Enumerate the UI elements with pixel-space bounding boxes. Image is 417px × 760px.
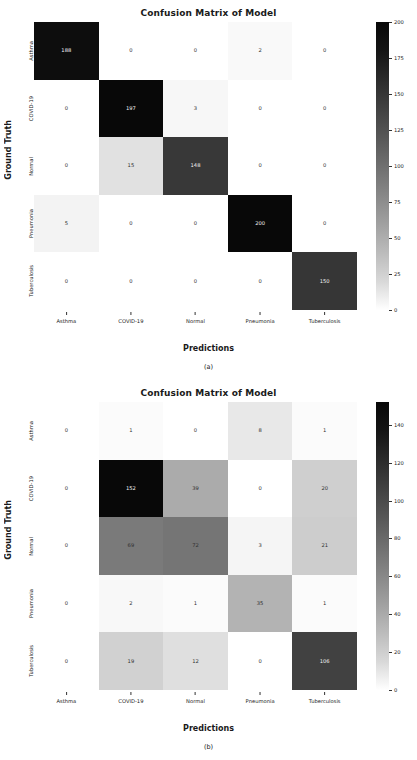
chart-title-b: Confusion Matrix of Model bbox=[0, 388, 417, 398]
colorbar-tick: 100 bbox=[389, 163, 404, 169]
x-tick-labels-a: AsthmaCOVID-19NormalPneumoniaTuberculosi… bbox=[34, 312, 357, 334]
heatmap-cell-value: 0 bbox=[129, 48, 132, 53]
heatmap-cell-value: 0 bbox=[65, 279, 68, 284]
heatmap-cell: 20 bbox=[292, 460, 357, 518]
x-tick-pneumonia: Pneumonia bbox=[246, 692, 275, 704]
x-tick-asthma: Asthma bbox=[56, 692, 76, 704]
heatmap-cell: 12 bbox=[163, 632, 228, 690]
heatmap-cell-value: 12 bbox=[192, 659, 199, 664]
y-tick-tuberculosis: Tuberculosis bbox=[14, 252, 34, 310]
heatmap-cell: 197 bbox=[99, 80, 164, 138]
heatmap-cell: 0 bbox=[228, 137, 293, 195]
heatmap-cell: 0 bbox=[292, 80, 357, 138]
heatmap-cell-value: 0 bbox=[194, 221, 197, 226]
colorbar-tick: 100 bbox=[389, 498, 404, 504]
heatmap-cell: 0 bbox=[228, 460, 293, 518]
heatmap-cell: 0 bbox=[34, 80, 99, 138]
heatmap-cell: 0 bbox=[292, 22, 357, 80]
heatmap-cell: 5 bbox=[34, 195, 99, 253]
x-tick-covid-19: COVID-19 bbox=[118, 692, 143, 704]
y-tick-labels-b: AsthmaCOVID-19NormalPneumoniaTuberculosi… bbox=[14, 402, 34, 690]
figure-a: Confusion Matrix of Model Ground Truth A… bbox=[0, 0, 417, 380]
heatmap-cell: 188 bbox=[34, 22, 99, 80]
heatmap-cell: 0 bbox=[292, 195, 357, 253]
heatmap-cell-value: 0 bbox=[258, 106, 261, 111]
heatmap-cell-value: 0 bbox=[65, 163, 68, 168]
figure-caption-a: (a) bbox=[0, 363, 417, 371]
heatmap-cell: 0 bbox=[34, 402, 99, 460]
heatmap-cell-value: 5 bbox=[65, 221, 68, 226]
heatmap-cell: 35 bbox=[228, 575, 293, 633]
heatmap-cell: 39 bbox=[163, 460, 228, 518]
x-tick-normal: Normal bbox=[186, 692, 205, 704]
heatmap-cell-value: 197 bbox=[126, 106, 136, 111]
heatmap-cell-value: 0 bbox=[258, 163, 261, 168]
heatmap-grid-a: 188002001973000151480050020000000150 bbox=[34, 22, 357, 310]
heatmap-cell-value: 0 bbox=[65, 106, 68, 111]
x-axis-title-a: Predictions bbox=[0, 344, 417, 353]
y-tick-covid-19: COVID-19 bbox=[14, 80, 34, 138]
heatmap-cell-value: 106 bbox=[320, 659, 330, 664]
colorbar-tick: 75 bbox=[389, 199, 401, 205]
colorbar-tick: 0 bbox=[389, 687, 397, 693]
heatmap-cell: 0 bbox=[34, 517, 99, 575]
heatmap-cell-value: 1 bbox=[323, 601, 326, 606]
heatmap-cell: 0 bbox=[34, 575, 99, 633]
heatmap-cell-value: 1 bbox=[129, 428, 132, 433]
heatmap-cell: 200 bbox=[228, 195, 293, 253]
heatmap-cell: 0 bbox=[292, 137, 357, 195]
heatmap-cell-value: 150 bbox=[320, 279, 330, 284]
heatmap-cell-value: 72 bbox=[192, 543, 199, 548]
heatmap-cell: 21 bbox=[292, 517, 357, 575]
heatmap-cell-value: 152 bbox=[126, 486, 136, 491]
x-axis-title-b: Predictions bbox=[0, 724, 417, 733]
heatmap-cell: 15 bbox=[99, 137, 164, 195]
heatmap-cell: 0 bbox=[99, 195, 164, 253]
colorbar-a: 0255075100125150175200 bbox=[376, 22, 389, 310]
heatmap-grid-b: 0108101523902006972321021351019120106 bbox=[34, 402, 357, 690]
colorbar-tick: 60 bbox=[389, 573, 401, 579]
heatmap-cell-value: 0 bbox=[194, 48, 197, 53]
colorbar-tick: 175 bbox=[389, 55, 404, 61]
colorbar-tick: 125 bbox=[389, 127, 404, 133]
y-tick-pneumonia: Pneumonia bbox=[14, 575, 34, 633]
heatmap-cell: 72 bbox=[163, 517, 228, 575]
heatmap-cell-value: 1 bbox=[323, 428, 326, 433]
heatmap-cell-value: 0 bbox=[258, 659, 261, 664]
heatmap-cell-value: 2 bbox=[129, 601, 132, 606]
colorbar-tick: 40 bbox=[389, 611, 401, 617]
heatmap-cell: 0 bbox=[34, 460, 99, 518]
heatmap-cell: 2 bbox=[228, 22, 293, 80]
heatmap-cell: 8 bbox=[228, 402, 293, 460]
heatmap-cell-value: 0 bbox=[323, 163, 326, 168]
heatmap-cell-value: 19 bbox=[128, 659, 135, 664]
chart-title-a: Confusion Matrix of Model bbox=[0, 8, 417, 18]
heatmap-cell: 1 bbox=[292, 575, 357, 633]
colorbar-tick: 25 bbox=[389, 271, 401, 277]
x-tick-labels-b: AsthmaCOVID-19NormalPneumoniaTuberculosi… bbox=[34, 692, 357, 714]
heatmap-cell: 19 bbox=[99, 632, 164, 690]
heatmap-cell-value: 35 bbox=[257, 601, 264, 606]
heatmap-cell-value: 148 bbox=[191, 163, 201, 168]
heatmap-cell: 0 bbox=[34, 632, 99, 690]
heatmap-cell: 0 bbox=[228, 632, 293, 690]
heatmap-cell: 0 bbox=[34, 137, 99, 195]
y-tick-normal: Normal bbox=[14, 517, 34, 575]
heatmap-cell-value: 0 bbox=[194, 428, 197, 433]
heatmap-cell-value: 0 bbox=[258, 486, 261, 491]
heatmap-cell-value: 0 bbox=[65, 659, 68, 664]
heatmap-cell: 150 bbox=[292, 252, 357, 310]
heatmap-cell: 0 bbox=[163, 252, 228, 310]
heatmap-cell-value: 1 bbox=[194, 601, 197, 606]
y-tick-asthma: Asthma bbox=[14, 402, 34, 460]
heatmap-cell: 0 bbox=[163, 195, 228, 253]
colorbar-tick: 120 bbox=[389, 460, 404, 466]
heatmap-cell-value: 8 bbox=[258, 428, 261, 433]
colorbar-tick: 140 bbox=[389, 422, 404, 428]
heatmap-cell-value: 69 bbox=[128, 543, 135, 548]
heatmap-cell: 0 bbox=[163, 402, 228, 460]
heatmap-cell-value: 3 bbox=[194, 106, 197, 111]
y-tick-pneumonia: Pneumonia bbox=[14, 195, 34, 253]
y-tick-normal: Normal bbox=[14, 137, 34, 195]
heatmap-cell-value: 3 bbox=[258, 543, 261, 548]
